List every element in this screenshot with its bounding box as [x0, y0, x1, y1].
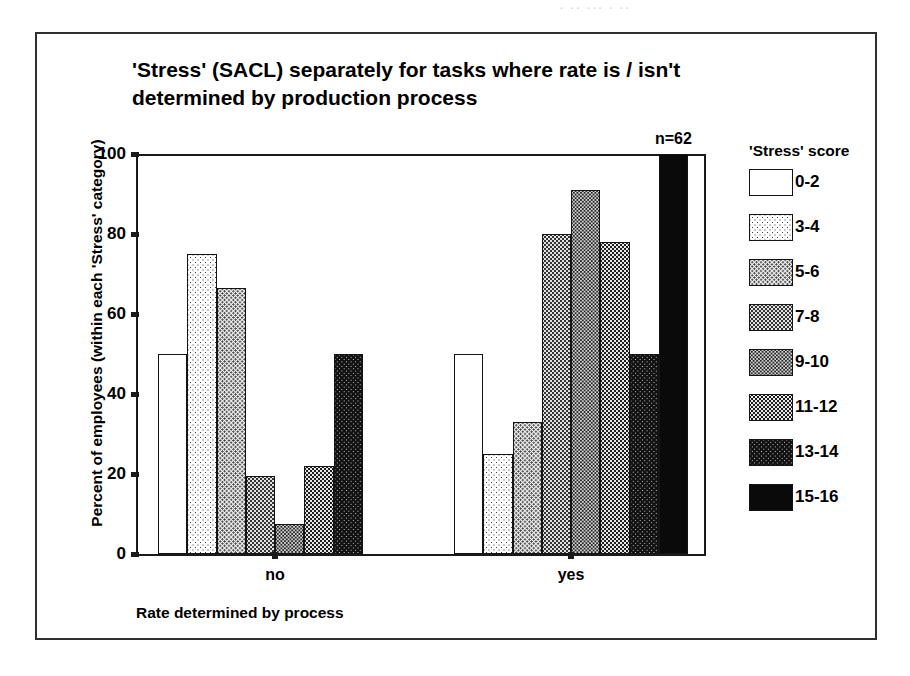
legend-label: 15-16 [795, 487, 838, 507]
bar [571, 190, 600, 554]
y-tick-label: 80 [107, 224, 126, 244]
legend-swatch [749, 439, 793, 466]
legend-item-9-10: 9-10 [749, 347, 910, 377]
legend-swatch [749, 169, 793, 196]
legend-label: 13-14 [795, 442, 838, 462]
legend-swatch [749, 214, 793, 241]
bar [158, 354, 187, 554]
legend-swatch [749, 304, 793, 331]
legend-swatch [749, 394, 793, 421]
bar [217, 288, 246, 554]
bar [304, 466, 333, 554]
y-tick-mark [131, 152, 139, 157]
x-axis-label: Rate determined by process [136, 604, 344, 622]
y-tick-mark [131, 472, 139, 477]
bar [542, 234, 571, 554]
bar [454, 354, 483, 554]
y-tick-mark [131, 392, 139, 397]
y-tick-mark [131, 312, 139, 317]
bar [275, 524, 304, 554]
y-tick-mark [131, 552, 139, 557]
x-tick-mark [568, 552, 574, 559]
x-tick-mark [272, 552, 278, 559]
legend: 'Stress' score 0-23-45-67-89-1011-1213-1… [749, 142, 910, 527]
legend-title: 'Stress' score [749, 142, 910, 160]
bar [246, 476, 275, 554]
bar [187, 254, 216, 554]
legend-label: 0-2 [795, 172, 820, 192]
bar [659, 154, 688, 554]
chart-title-line-2: determined by production process [132, 84, 712, 112]
x-axis-spine [136, 554, 706, 556]
y-tick-label: 0 [117, 544, 126, 564]
chart-title: 'Stress' (SACL) separately for tasks whe… [132, 56, 712, 113]
x-tick-label: yes [558, 566, 585, 584]
legend-label: 11-12 [795, 397, 838, 417]
legend-swatch [749, 259, 793, 286]
legend-label: 5-6 [795, 262, 820, 282]
plot-area: 020406080100 noyes n=62 [136, 154, 706, 554]
legend-item-7-8: 7-8 [749, 302, 910, 332]
y-tick-mark [131, 232, 139, 237]
legend-label: 3-4 [795, 217, 820, 237]
legend-rows: 0-23-45-67-89-1011-1213-1415-16 [749, 167, 910, 512]
legend-item-15-16: 15-16 [749, 482, 910, 512]
legend-item-0-2: 0-2 [749, 167, 910, 197]
y-tick-label: 40 [107, 384, 126, 404]
y-tick-label: 20 [107, 464, 126, 484]
bar [630, 354, 659, 554]
scanner-artifact-text: · ·· ··· · ·· [560, 2, 900, 14]
legend-item-3-4: 3-4 [749, 212, 910, 242]
x-tick-label: no [265, 566, 285, 584]
chart-title-line-1: 'Stress' (SACL) separately for tasks whe… [132, 56, 712, 84]
legend-swatch [749, 349, 793, 376]
y-tick-label: 100 [98, 144, 126, 164]
y-axis-label: Percent of employees (within each 'Stres… [88, 123, 106, 543]
plot-top-rule [136, 154, 706, 156]
legend-label: 9-10 [795, 352, 829, 372]
legend-item-11-12: 11-12 [749, 392, 910, 422]
bar [483, 454, 512, 554]
legend-swatch [749, 484, 793, 511]
legend-item-13-14: 13-14 [749, 437, 910, 467]
bar-annotation: n=62 [655, 130, 692, 148]
bar [334, 354, 363, 554]
legend-item-5-6: 5-6 [749, 257, 910, 287]
chart-frame: 'Stress' (SACL) separately for tasks whe… [35, 32, 877, 640]
plot-right-spine [704, 154, 706, 554]
legend-label: 7-8 [795, 307, 820, 327]
y-axis-spine [136, 154, 138, 554]
y-tick-label: 60 [107, 304, 126, 324]
bar [600, 242, 629, 554]
bar [513, 422, 542, 554]
